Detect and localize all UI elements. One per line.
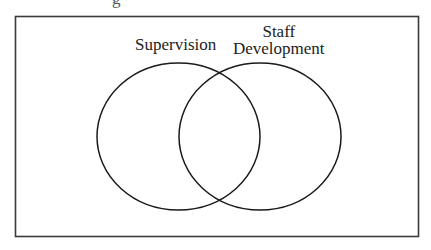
staff-development-label-line-1: Staff [233,23,325,40]
diagram-frame [16,17,419,237]
supervision-label: Supervision [135,36,216,53]
staff-development-label: Staff Development [233,23,325,57]
cropped-text-fragment: g [112,0,121,8]
staff-development-label-line-2: Development [233,40,325,57]
